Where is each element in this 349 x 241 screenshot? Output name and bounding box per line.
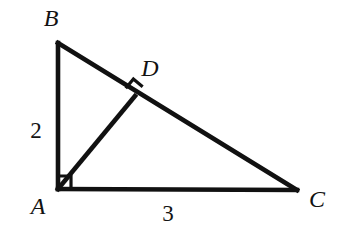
side-length-AC: 3 <box>162 202 174 225</box>
geometry-figure: B A C D 2 3 <box>0 0 349 241</box>
geometry-canvas <box>0 0 349 241</box>
segment-BC <box>58 43 297 190</box>
vertex-label-C: C <box>309 187 325 211</box>
segment-AC <box>58 189 297 190</box>
vertex-label-B: B <box>44 6 59 30</box>
vertex-label-A: A <box>31 194 46 218</box>
vertex-label-D: D <box>141 56 158 80</box>
side-length-AB: 2 <box>30 119 42 142</box>
